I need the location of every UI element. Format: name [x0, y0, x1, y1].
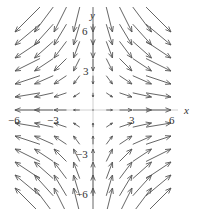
vector-arrow: [35, 149, 54, 161]
vector-arrow: [133, 175, 152, 196]
vector-arrow: [54, 108, 66, 111]
vector-arrow: [106, 109, 112, 111]
vector-arrow: [54, 136, 66, 144]
vector-arrow: [74, 109, 80, 111]
y-axis-label: y: [89, 9, 95, 21]
vector-arrow: [74, 93, 80, 97]
vector-arrow: [146, 188, 171, 209]
vector-arrow: [133, 24, 152, 45]
vector-field-plot: y x 6 3 −3 −6 −6 −3 3 6: [0, 0, 198, 209]
vector-arrow: [54, 93, 66, 97]
vector-arrow: [120, 76, 132, 84]
x-tick-neg6: −6: [8, 114, 20, 126]
vector-arrow: [106, 136, 112, 144]
vector-arrow: [106, 59, 112, 71]
y-tick-6: 6: [82, 25, 88, 37]
x-tick-6: 6: [169, 114, 175, 126]
y-tick-3: 3: [83, 65, 89, 77]
vector-arrow: [120, 108, 132, 111]
vector-arrow: [146, 7, 171, 32]
vector-arrow: [92, 123, 94, 127]
vector-arrow: [15, 7, 40, 32]
vector-arrow: [146, 24, 171, 45]
vector-arrow: [35, 7, 54, 32]
vector-arrow: [15, 188, 40, 209]
vector-arrow-point: [92, 109, 93, 110]
vector-arrow: [74, 59, 80, 71]
vector-arrow: [106, 76, 112, 84]
vector-arrow: [133, 188, 152, 209]
vector-arrow: [91, 41, 95, 58]
vector-arrow: [120, 188, 132, 209]
vector-arrow: [120, 93, 132, 97]
vector-arrow: [106, 93, 112, 97]
vector-arrow: [146, 108, 171, 112]
vector-arrow: [74, 123, 80, 127]
y-tick-neg6: −6: [76, 188, 88, 200]
vector-arrow: [15, 24, 40, 45]
vector-arrow: [35, 175, 54, 196]
vector-arrow: [91, 149, 94, 161]
vector-arrow: [35, 59, 54, 71]
vector-arrow: [92, 76, 94, 84]
vector-arrow: [120, 59, 132, 71]
vector-arrow: [92, 136, 94, 144]
x-tick-neg3: −3: [47, 114, 59, 126]
vector-arrow: [54, 7, 66, 32]
vector-arrow: [106, 123, 112, 127]
axes: [14, 26, 178, 196]
vector-arrow: [54, 76, 66, 84]
vector-arrow: [92, 93, 94, 97]
x-axis-label: x: [183, 104, 189, 116]
vector-arrow: [35, 108, 54, 112]
vector-arrow: [133, 7, 152, 32]
vector-arrow: [54, 188, 66, 209]
vector-arrow: [74, 136, 80, 144]
vector-arrow: [120, 136, 132, 144]
vector-arrow: [54, 59, 66, 71]
vector-arrow: [120, 149, 132, 161]
x-tick-3: 3: [129, 114, 135, 126]
vector-arrow: [74, 76, 80, 84]
vector-arrow: [133, 149, 152, 161]
vector-arrow: [54, 149, 66, 161]
vector-arrow: [120, 7, 132, 32]
vector-arrow: [106, 149, 112, 161]
vector-arrow: [133, 59, 152, 71]
vector-arrow: [35, 24, 54, 45]
vector-arrow: [91, 188, 95, 209]
vector-arrow: [35, 188, 54, 209]
vector-arrow: [91, 59, 94, 71]
y-tick-neg3: −3: [76, 148, 88, 160]
